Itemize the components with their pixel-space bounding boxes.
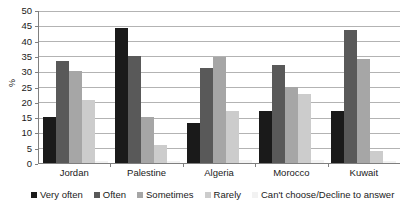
bar-group (39, 11, 111, 163)
y-axis-tick-label: 15 (2, 113, 32, 123)
bar-group (111, 11, 183, 163)
bar-group (183, 11, 255, 163)
legend-swatch-icon (94, 192, 100, 198)
bar (272, 65, 285, 163)
legend-label: Very often (40, 190, 83, 200)
bar (200, 68, 213, 163)
x-axis-tick (110, 164, 111, 167)
legend-swatch-icon (137, 192, 143, 198)
bar (69, 71, 82, 163)
bar (344, 30, 357, 163)
legend-swatch-icon (252, 192, 258, 198)
y-axis-tick-label: 35 (2, 52, 32, 62)
x-axis-category-label: Palestine (110, 167, 182, 178)
legend-item[interactable]: Sometimes (137, 190, 194, 200)
bar (298, 94, 311, 163)
x-axis-category-label: Morocco (255, 167, 327, 178)
legend-item[interactable]: Often (94, 190, 126, 200)
x-axis-category-label: Kuwait (328, 167, 400, 178)
bar-chart: % 05101520253035404550 JordanPalestineAl… (0, 0, 413, 210)
bar (226, 111, 239, 163)
x-axis-tick (255, 164, 256, 167)
legend-swatch-icon (205, 192, 211, 198)
y-axis-tick-label: 5 (2, 144, 32, 154)
bar (154, 145, 167, 163)
bar (213, 57, 226, 163)
bar (56, 61, 69, 164)
legend-item[interactable]: Very often (31, 190, 83, 200)
bar (383, 161, 396, 163)
y-axis-tick-label: 45 (2, 21, 32, 31)
x-axis-tick (183, 164, 184, 167)
bar-group (328, 11, 400, 163)
legend-item[interactable]: Rarely (205, 190, 241, 200)
bar (239, 160, 252, 163)
bar (43, 117, 56, 163)
chart-legend: Very oftenOftenSometimesRarelyCan't choo… (31, 190, 405, 200)
legend-label: Can't choose/Decline to answer (261, 190, 394, 200)
bar (285, 87, 298, 164)
bar (95, 161, 108, 163)
legend-label: Often (103, 190, 126, 200)
bar (141, 117, 154, 163)
bar (128, 56, 141, 163)
y-axis-tick-label: 40 (2, 37, 32, 47)
bar (331, 111, 344, 163)
y-axis-tick (35, 164, 38, 165)
bar-groups (39, 11, 400, 163)
bar (115, 28, 128, 163)
bar (357, 59, 370, 163)
y-axis-tick-label: 50 (2, 6, 32, 16)
x-axis-category-label: Algeria (183, 167, 255, 178)
x-axis-tick (328, 164, 329, 167)
legend-item[interactable]: Can't choose/Decline to answer (252, 190, 394, 200)
y-axis-tick-label: 10 (2, 128, 32, 138)
bar (370, 151, 383, 163)
bar-group (256, 11, 328, 163)
legend-label: Rarely (214, 190, 241, 200)
bar (167, 161, 180, 163)
y-axis-title: % (7, 63, 17, 103)
plot-area (38, 11, 400, 164)
y-axis-tick-label: 0 (2, 159, 32, 169)
bar (82, 100, 95, 163)
bar (311, 160, 324, 163)
bar (259, 111, 272, 163)
bar (187, 123, 200, 163)
x-axis-category-label: Jordan (38, 167, 110, 178)
legend-label: Sometimes (146, 190, 194, 200)
legend-swatch-icon (31, 192, 37, 198)
x-axis-category-labels: JordanPalestineAlgeriaMoroccoKuwait (38, 167, 400, 178)
